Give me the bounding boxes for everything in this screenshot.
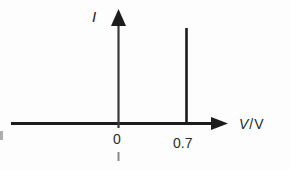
voltage-axis-label: V/V xyxy=(239,117,264,131)
voltage-symbol: V xyxy=(239,116,248,132)
tick-label-origin: 0 xyxy=(113,132,121,146)
voltage-axis-arrowhead xyxy=(211,117,228,130)
tick-label-threshold: 0.7 xyxy=(173,136,192,150)
current-axis-arrowhead xyxy=(111,9,126,26)
voltage-unit: V xyxy=(254,116,263,132)
current-axis-label: I xyxy=(92,9,96,24)
diagram-canvas: I V/V 0 0.7 xyxy=(0,0,290,170)
iv-characteristic-diagram xyxy=(0,0,290,170)
scan-edge-artifact xyxy=(0,131,3,140)
